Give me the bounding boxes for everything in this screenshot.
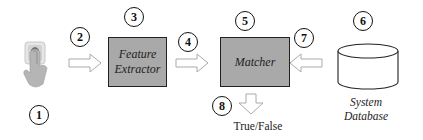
system-database-label: System Database: [335, 95, 397, 123]
feature-extractor-label-line2: Extractor: [115, 62, 161, 77]
feature-extractor-label-line1: Feature: [115, 47, 161, 62]
system-database-label-line1: System: [335, 95, 397, 109]
arrow-right-icon: [68, 53, 102, 73]
step-7-badge: 7: [294, 28, 314, 48]
output-true-false-label: True/False: [222, 120, 294, 132]
step-6-badge: 6: [353, 11, 373, 31]
step-1-number: 1: [36, 108, 42, 123]
step-2-number: 2: [77, 30, 83, 45]
step-3-number: 3: [131, 10, 137, 25]
step-7-number: 7: [301, 31, 307, 46]
step-8-number: 8: [219, 99, 225, 114]
arrow-down-icon: [238, 93, 264, 115]
step-2-badge: 2: [70, 27, 90, 47]
step-8-badge: 8: [212, 96, 232, 116]
arrow-left-icon: [289, 53, 323, 73]
step-5-number: 5: [242, 14, 248, 29]
arrow-right-icon: [175, 53, 209, 73]
step-4-number: 4: [185, 35, 191, 50]
step-3-badge: 3: [124, 7, 144, 27]
matcher-box: Matcher: [220, 37, 290, 87]
step-5-badge: 5: [235, 11, 255, 31]
database-cylinder-icon: [336, 42, 400, 92]
fingerprint-touch-icon: [21, 40, 51, 90]
feature-extractor-box: Feature Extractor: [108, 37, 167, 87]
matcher-label: Matcher: [235, 55, 276, 70]
step-6-number: 6: [360, 14, 366, 29]
system-database-label-line2: Database: [335, 109, 397, 123]
step-1-badge: 1: [29, 105, 49, 125]
step-4-badge: 4: [178, 32, 198, 52]
